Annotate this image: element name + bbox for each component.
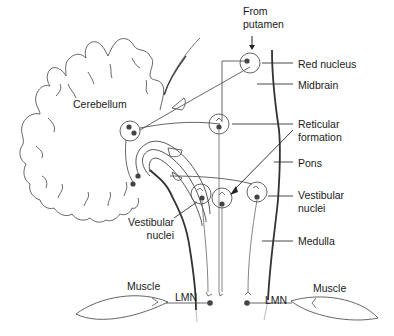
peduncle-curve (165, 38, 200, 94)
cerebellar-nucleus-descending (125, 140, 133, 182)
label-red-nucleus: Red nucleus (298, 58, 356, 71)
label-muscle-left: Muscle (127, 280, 160, 293)
vestibular-left-synapse (197, 188, 203, 191)
muscle-left-endplate (152, 298, 158, 306)
vestibular-right-dot (254, 194, 259, 199)
cerebellum-to-vestibular-right (170, 176, 252, 184)
red-nucleus-circle (240, 53, 260, 73)
lumen-shape-1 (172, 98, 185, 110)
leader-reticular-arrow (234, 130, 293, 190)
vestibular-left-circle (191, 184, 211, 204)
cerebellar-nucleus-circle (120, 121, 140, 141)
muscle-right-shape (291, 297, 378, 320)
cerebellar-nucleus-dot-1 (126, 124, 131, 129)
vestibular-right-synapse (253, 186, 259, 189)
label-muscle-right: Muscle (313, 282, 346, 295)
label-cerebellum: Cerebellum (73, 98, 127, 111)
peduncle-loop-outer (143, 150, 207, 222)
label-medulla: Medulla (298, 235, 335, 248)
label-vestibular-nuclei-left: Vestibular nuclei (128, 216, 174, 242)
medullary-reticular-dot (219, 201, 224, 206)
leader-vestibular-left (174, 202, 197, 218)
cerebellum-outline (20, 39, 164, 223)
label-vestibular-nuclei-right: Vestibular nuclei (298, 189, 344, 215)
cerebellar-cortex-dot-1 (135, 173, 140, 178)
brainstem-left-faint (196, 310, 197, 322)
label-midbrain: Midbrain (298, 79, 338, 92)
label-lmn-right: LMN (265, 294, 287, 307)
cerebellar-nucleus-dot-2 (131, 130, 136, 135)
pontine-reticular-dot (216, 124, 221, 129)
label-reticular-formation: Reticular formation (298, 118, 342, 144)
cerebellar-cortex-dot-2 (130, 181, 135, 186)
brainstem-right-border (268, 50, 280, 300)
label-pons: Pons (298, 157, 322, 170)
vestibular-right-axon (248, 200, 257, 292)
label-lmn-left: LMN (175, 291, 197, 304)
cerebellum-to-red-nucleus (140, 67, 250, 130)
peduncle-curve-inner (164, 56, 186, 95)
label-from-putamen: From putamen (243, 5, 284, 31)
terminal-right (245, 292, 251, 295)
medullary-reticular-synapse (219, 192, 225, 195)
vestibular-left-dot (199, 195, 204, 200)
putamen-arrow-head (249, 45, 255, 50)
muscle-right-endplate (312, 298, 316, 308)
pontine-reticular-synapse (216, 118, 222, 121)
terminal-left (206, 292, 223, 296)
